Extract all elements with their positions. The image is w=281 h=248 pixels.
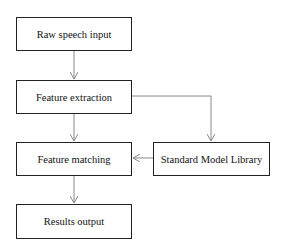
- node-label: Feature matching: [37, 154, 110, 165]
- node-label: Feature extraction: [36, 92, 112, 103]
- edge-extract-library: [132, 96, 211, 141]
- node-feature-matching: Feature matching: [16, 142, 132, 176]
- node-results-output: Results output: [16, 204, 132, 239]
- node-standard-model-library: Standard Model Library: [153, 142, 270, 176]
- node-feature-extraction: Feature extraction: [16, 80, 132, 114]
- node-raw-speech-input: Raw speech input: [16, 17, 132, 51]
- node-label: Raw speech input: [37, 29, 112, 40]
- node-label: Results output: [44, 216, 104, 227]
- node-label: Standard Model Library: [161, 154, 262, 165]
